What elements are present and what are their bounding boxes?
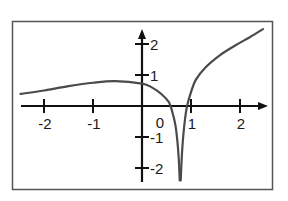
x-tick-label: 1 bbox=[188, 115, 196, 132]
y-tick-label: 1 bbox=[150, 67, 158, 84]
y-tick-label: -2 bbox=[150, 160, 163, 177]
y-tick-label: 2 bbox=[150, 36, 158, 53]
x-tick-label: -2 bbox=[38, 115, 51, 132]
x-tick-label: -1 bbox=[87, 115, 100, 132]
x-tick-label: 2 bbox=[237, 115, 245, 132]
y-tick-label: -1 bbox=[150, 129, 163, 146]
origin-label: 0 bbox=[156, 114, 164, 131]
function-plot: -2-11221-1-20 bbox=[0, 0, 288, 201]
